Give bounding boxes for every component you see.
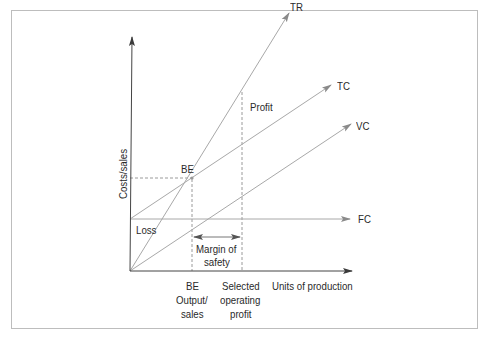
tc-label: TC: [337, 80, 350, 93]
y-axis: [130, 37, 132, 271]
profit-label: Profit: [250, 101, 273, 114]
be-point-label: BE: [181, 163, 194, 176]
margin-of-safety-label-line1: Margin of: [196, 243, 236, 256]
selected-operating-profit-tick-line1: Selected: [222, 280, 260, 293]
be-output-tick-line3: sales: [181, 308, 204, 321]
be-output-tick-line2: Output/: [176, 294, 208, 307]
margin-of-safety-label-line2: safety: [204, 256, 230, 269]
fc-label: FC: [358, 213, 371, 226]
selected-operating-profit-tick-line3: profit: [230, 308, 252, 321]
tc-line: [130, 85, 331, 219]
selected-operating-profit-tick-line2: operating: [220, 294, 260, 307]
break-even-point: [190, 176, 193, 179]
loss-label: Loss: [136, 224, 156, 237]
be-output-tick-line1: BE: [186, 280, 199, 293]
x-axis-label: Units of production: [272, 280, 353, 293]
y-axis-label: Costs/sales: [117, 149, 129, 199]
tr-label: TR: [290, 1, 303, 14]
vc-label: VC: [356, 120, 369, 133]
